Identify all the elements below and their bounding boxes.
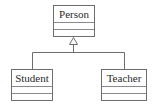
class-name-teacher: Teacher	[102, 70, 146, 87]
attributes-compartment-teacher	[102, 87, 146, 94]
operations-compartment-person	[54, 30, 94, 36]
attributes-compartment-person	[54, 23, 94, 30]
class-teacher: Teacher	[101, 69, 147, 101]
operations-compartment-teacher	[102, 94, 146, 100]
class-name-person: Person	[54, 6, 94, 23]
operations-compartment-student	[12, 94, 52, 100]
class-student: Student	[11, 69, 53, 101]
attributes-compartment-student	[12, 87, 52, 94]
generalization-arrowhead-icon	[70, 38, 78, 45]
class-name-student: Student	[12, 70, 52, 87]
class-person: Person	[53, 5, 95, 37]
